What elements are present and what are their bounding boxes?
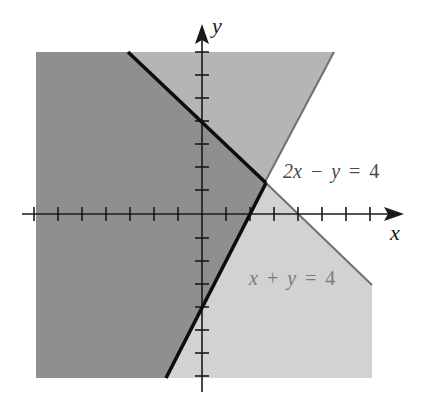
line-2-equation-label: 2x − y = 4 [283,160,379,183]
y-axis-label: y [210,13,222,38]
x-axis-label: x [389,220,400,245]
inequality-graph: y x 2x − y = 4 x + y = 4 [0,0,424,402]
